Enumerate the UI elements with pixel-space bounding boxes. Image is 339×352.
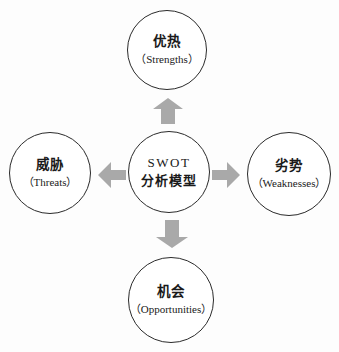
node-threats-label-zh: 威胁 — [36, 156, 64, 174]
node-strengths: 优热 （Strengths） — [127, 10, 207, 90]
swot-diagram: 优热 （Strengths） 威胁 （Threats） SWOT 分析模型 劣势… — [0, 0, 339, 352]
center-label-line2: 分析模型 — [141, 172, 197, 190]
node-strengths-label-en: （Strengths） — [135, 52, 199, 67]
arrow-down-icon — [156, 220, 188, 248]
arrow-up-icon — [153, 98, 183, 124]
node-strengths-label-zh: 优热 — [153, 33, 181, 51]
node-threats-label-en: （Threats） — [23, 175, 78, 190]
node-opportunities: 机会 （Opportunities） — [128, 257, 214, 343]
center-label-line1: SWOT — [148, 154, 191, 172]
node-opportunities-label-zh: 机会 — [157, 283, 185, 301]
node-weaknesses-label-en: （Weaknesses） — [252, 176, 327, 191]
node-weaknesses-label-zh: 劣势 — [275, 157, 303, 175]
node-threats: 威胁 （Threats） — [9, 132, 91, 214]
node-weaknesses: 劣势 （Weaknesses） — [247, 132, 331, 216]
arrow-right-icon — [212, 162, 240, 188]
arrow-left-icon — [98, 162, 126, 188]
node-opportunities-label-en: （Opportunities） — [130, 302, 213, 317]
node-swot-center: SWOT 分析模型 — [128, 131, 210, 213]
